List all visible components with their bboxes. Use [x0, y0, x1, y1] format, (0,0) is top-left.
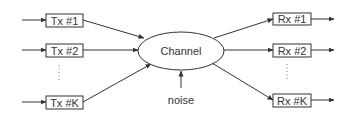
arrow-channel-rxk: [212, 63, 273, 100]
rx-label-1: Rx #1: [278, 13, 307, 25]
channel-label: Channel: [161, 45, 202, 57]
rx-label-k: Rx #K: [277, 95, 308, 107]
tx-label-k: Tx #K: [50, 97, 79, 109]
tx-box-2: Tx #2: [46, 44, 83, 57]
channel-node: Channel: [138, 32, 224, 70]
tx-label-2: Tx #2: [51, 45, 79, 57]
arrow-tx1-channel: [83, 20, 144, 38]
tx-label-1: Tx #1: [51, 15, 79, 27]
noise-label: noise: [168, 94, 194, 106]
channel-diagram: Tx #1 Tx #2 Tx #K Channel noise Rx #1 Rx…: [0, 0, 354, 115]
tx-box-1: Tx #1: [46, 14, 83, 27]
arrow-channel-rx1: [214, 19, 273, 38]
arrow-txk-channel: [83, 64, 151, 102]
rx-box-1: Rx #1: [273, 13, 311, 25]
tx-box-k: Tx #K: [46, 96, 83, 109]
rx-label-2: Rx #2: [278, 45, 307, 57]
rx-box-k: Rx #K: [273, 94, 311, 107]
rx-box-2: Rx #2: [273, 44, 311, 57]
